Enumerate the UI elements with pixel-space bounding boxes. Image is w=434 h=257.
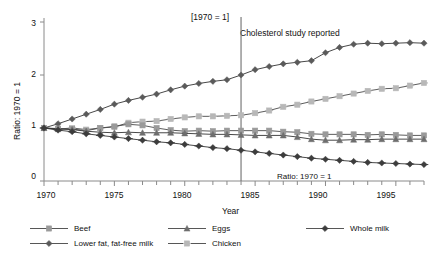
legend-swatch-whole-milk	[304, 222, 346, 235]
legend-swatch-eggs	[166, 222, 208, 235]
legend-swatch-lower-fat-milk	[28, 237, 70, 250]
legend-swatch-beef	[28, 222, 70, 235]
series-chicken	[40, 80, 428, 132]
legend-label-eggs: Eggs	[212, 222, 230, 235]
chart-legend: Beef Eggs Whole milk Lower fat, fat-free…	[0, 222, 434, 254]
series-whole-milk	[40, 125, 429, 168]
series-lower-fat-fat-free-milk	[41, 40, 427, 132]
legend-swatch-chicken	[166, 237, 208, 250]
legend-label-whole-milk: Whole milk	[350, 222, 389, 235]
plot-area	[0, 0, 434, 257]
chart-root: [1970 = 1] Cholesterol study reported Ra…	[0, 0, 434, 257]
legend-label-lower-fat-milk: Lower fat, fat-free milk	[74, 237, 153, 250]
legend-label-chicken: Chicken	[212, 237, 241, 250]
legend-label-beef: Beef	[74, 222, 90, 235]
series-lines	[40, 40, 429, 168]
